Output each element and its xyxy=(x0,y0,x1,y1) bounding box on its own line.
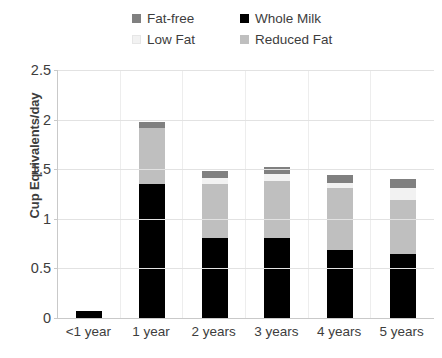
y-axis-tick-label: 0.5 xyxy=(7,261,51,276)
bar-segment[interactable] xyxy=(264,181,290,238)
legend-item-reduced-fat[interactable]: Reduced Fat xyxy=(240,33,382,47)
bar-slot xyxy=(183,70,246,318)
bar-segment[interactable] xyxy=(264,174,290,181)
gridline xyxy=(58,268,434,269)
y-axis-tick-mark xyxy=(54,268,58,269)
bar-segment[interactable] xyxy=(390,179,416,188)
legend-item-fat-free[interactable]: Fat-free xyxy=(132,12,240,26)
x-axis-tick-label: 5 years xyxy=(370,325,433,351)
legend-swatch-reduced-fat-icon xyxy=(240,35,249,44)
x-axis-tick-label: 4 years xyxy=(308,325,371,351)
bar-segment[interactable] xyxy=(202,184,228,238)
bar-slot xyxy=(371,70,434,318)
bar-stack[interactable] xyxy=(327,175,353,318)
y-axis-tick-mark xyxy=(54,219,58,220)
bar-stack[interactable] xyxy=(202,171,228,318)
bar-segment[interactable] xyxy=(76,311,102,318)
bar-slot xyxy=(121,70,184,318)
bar-slot xyxy=(246,70,309,318)
y-axis-tick-label: 1 xyxy=(7,212,51,227)
stacked-bar-chart: Fat-free Whole Milk Low Fat Reduced Fat … xyxy=(0,0,442,358)
y-axis-tick-label: 2 xyxy=(7,112,51,127)
bar-stack[interactable] xyxy=(390,179,416,318)
x-axis-tick-label: 1 year xyxy=(120,325,183,351)
gridline xyxy=(58,70,434,71)
bar-segment[interactable] xyxy=(264,238,290,318)
y-axis-tick-mark xyxy=(54,120,58,121)
bar-segment[interactable] xyxy=(327,175,353,183)
x-axis-tick-label: <1 year xyxy=(57,325,120,351)
bar-segment[interactable] xyxy=(390,254,416,318)
bar-segment[interactable] xyxy=(202,171,228,178)
legend-label-low-fat: Low Fat xyxy=(147,33,195,47)
bar-segment[interactable] xyxy=(139,184,165,318)
x-axis-tick-label: 3 years xyxy=(245,325,308,351)
y-axis-tick-label: 0 xyxy=(7,311,51,326)
legend-label-whole-milk: Whole Milk xyxy=(255,12,321,26)
gridline xyxy=(58,169,434,170)
bar-segment[interactable] xyxy=(139,128,165,185)
legend-swatch-fat-free-icon xyxy=(132,14,141,23)
legend-label-reduced-fat: Reduced Fat xyxy=(255,33,332,47)
legend-item-low-fat[interactable]: Low Fat xyxy=(132,33,240,47)
bar-segment[interactable] xyxy=(202,238,228,318)
x-axis-tick-label: 2 years xyxy=(182,325,245,351)
bar-segment[interactable] xyxy=(327,250,353,318)
bar-slot xyxy=(309,70,372,318)
y-axis-tick-mark xyxy=(54,70,58,71)
bar-segment[interactable] xyxy=(390,188,416,200)
gridline xyxy=(58,219,434,220)
bar-segment[interactable] xyxy=(390,200,416,254)
bar-stack[interactable] xyxy=(139,122,165,318)
bar-slot xyxy=(58,70,121,318)
y-axis-tick-mark xyxy=(54,318,58,319)
bar-group xyxy=(58,70,434,318)
plot-area: 00.511.522.5 xyxy=(57,70,434,318)
y-axis-tick-label: 2.5 xyxy=(7,63,51,78)
bar-stack[interactable] xyxy=(264,167,290,318)
chart-legend: Fat-free Whole Milk Low Fat Reduced Fat xyxy=(132,8,382,50)
legend-swatch-low-fat-icon xyxy=(132,35,141,44)
gridline xyxy=(58,120,434,121)
x-axis-line xyxy=(58,318,434,319)
y-axis-tick-mark xyxy=(54,169,58,170)
bar-stack[interactable] xyxy=(76,311,102,318)
y-axis-tick-label: 1.5 xyxy=(7,162,51,177)
legend-item-whole-milk[interactable]: Whole Milk xyxy=(240,12,382,26)
legend-swatch-whole-milk-icon xyxy=(240,14,249,23)
legend-label-fat-free: Fat-free xyxy=(147,12,194,26)
x-axis-labels: <1 year1 year2 years3 years4 years5 year… xyxy=(57,325,433,351)
